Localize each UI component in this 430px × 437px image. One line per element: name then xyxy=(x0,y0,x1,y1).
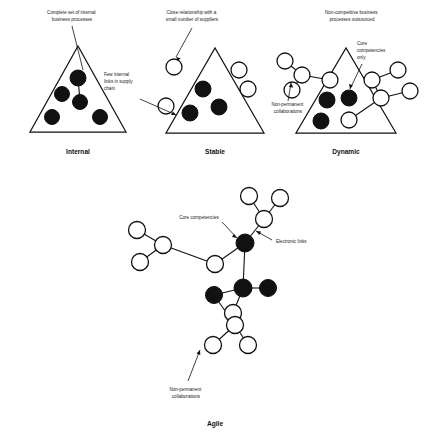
filled-node xyxy=(260,280,277,297)
panel-title-dynamic: Dynamic xyxy=(332,148,360,156)
panel-agile: Core competencies Electronic links Non-p… xyxy=(129,188,308,428)
internal-leader-line xyxy=(72,26,83,70)
stable-leader-line xyxy=(176,28,192,57)
filled-node xyxy=(319,92,335,108)
hollow-node xyxy=(132,254,149,271)
panel-dynamic: Non-competitive business processes outso… xyxy=(271,10,418,156)
hollow-node xyxy=(240,81,256,97)
agile-annotation-electronic: Electronic links xyxy=(276,239,307,244)
internal-annotation: Complete set of internal business proces… xyxy=(47,10,97,22)
filled-node xyxy=(45,110,60,125)
hollow-node xyxy=(277,53,293,69)
hollow-node xyxy=(390,62,406,78)
hollow-node xyxy=(364,72,380,88)
agile-core-arrowhead xyxy=(232,234,237,238)
filled-node xyxy=(73,95,88,110)
hollow-node xyxy=(227,317,244,334)
dynamic-annotation-core-only: Core competencies only xyxy=(357,41,387,60)
panel-title-internal: Internal xyxy=(66,148,90,155)
hollow-node xyxy=(129,222,146,239)
agile-electronic-arrowhead xyxy=(256,231,261,235)
dynamic-annotation-outsourced: Non-competitive business processes outso… xyxy=(325,10,379,22)
filled-node xyxy=(93,110,108,125)
hollow-node xyxy=(231,62,247,78)
filled-node xyxy=(195,81,211,97)
hollow-node xyxy=(205,337,222,354)
stable-annotation-few-links: Few internal links in supply chain xyxy=(104,72,134,91)
hollow-node xyxy=(207,256,224,273)
hollow-node xyxy=(322,72,338,88)
hollow-node xyxy=(155,237,172,254)
typology-diagram: Complete set of internal business proces… xyxy=(0,0,430,437)
hollow-node xyxy=(284,82,300,98)
filled-node xyxy=(182,105,198,121)
filled-node xyxy=(234,279,252,297)
panel-title-stable: Stable xyxy=(205,148,225,155)
filled-node xyxy=(211,99,227,115)
panel-stable: Close relationship with a small number o… xyxy=(104,10,264,155)
hollow-node xyxy=(373,90,389,106)
hollow-node xyxy=(294,67,310,83)
hollow-node xyxy=(256,211,273,228)
filled-node xyxy=(236,234,254,252)
agile-annotation-non-permanent: Non-permanent collaborations xyxy=(169,387,202,399)
panel-title-agile: Agile xyxy=(207,420,223,428)
filled-node xyxy=(341,90,357,106)
dynamic-annotation-non-permanent: Non-permanent collaborations xyxy=(271,102,304,114)
hollow-node xyxy=(240,337,257,354)
hollow-node xyxy=(402,83,418,99)
stable-annotation-suppliers: Close relationship with a small number o… xyxy=(166,10,219,22)
filled-node xyxy=(55,87,70,102)
hollow-node xyxy=(158,98,174,114)
filled-node xyxy=(206,287,223,304)
agile-nonpermanent-leader-line xyxy=(188,350,200,381)
hollow-node xyxy=(166,59,182,75)
filled-node xyxy=(70,70,86,86)
agile-annotation-core: Core competencies xyxy=(179,215,219,220)
hollow-node xyxy=(341,112,357,128)
hollow-node xyxy=(241,188,258,205)
hollow-node xyxy=(272,190,289,207)
filled-node xyxy=(313,113,329,129)
